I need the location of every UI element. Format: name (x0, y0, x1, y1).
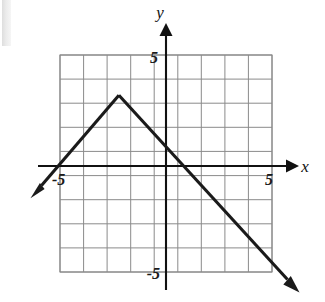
y-axis-tick-label-positive: 5 (150, 49, 158, 66)
x-axis-tick-label-positive: 5 (265, 171, 273, 188)
y-axis-tick-label-negative: -5 (147, 265, 160, 282)
x-axis-tick-label-negative: -5 (52, 171, 65, 188)
y-axis-label: y (154, 3, 164, 22)
coordinate-plane-svg: y x 5 -5 -5 5 (0, 0, 325, 302)
x-axis-label: x (300, 157, 309, 176)
graph-figure: y x 5 -5 -5 5 (0, 0, 325, 302)
x-axis-arrowhead (286, 160, 299, 173)
y-axis-arrowhead (160, 23, 173, 36)
curve-right-arm (119, 95, 288, 279)
